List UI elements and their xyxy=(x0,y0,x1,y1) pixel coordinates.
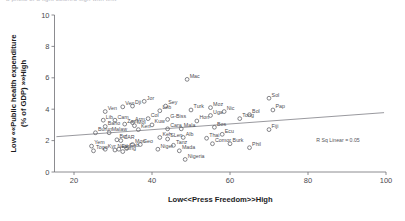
data-point-label: Ven xyxy=(125,100,134,106)
data-point-marker[interactable] xyxy=(189,108,193,112)
data-point-label: Nigeria xyxy=(188,153,205,159)
data-point-marker[interactable] xyxy=(213,125,217,129)
y-axis-title-line2: (% of GDP) »»High xyxy=(19,60,28,127)
data-point-label: Alb xyxy=(186,131,194,137)
data-point-label: Fiji xyxy=(272,123,279,129)
data-point-label: Sol xyxy=(272,92,280,98)
data-point-label: Kuw xyxy=(155,118,165,124)
y-tick-label: 6 xyxy=(45,73,49,82)
y-tick-label: 2 xyxy=(45,136,49,145)
data-point-marker[interactable] xyxy=(211,142,215,146)
data-point-marker[interactable] xyxy=(248,146,252,150)
data-point-marker[interactable] xyxy=(195,119,199,123)
data-point-marker[interactable] xyxy=(185,77,189,81)
data-point-label: Baho xyxy=(108,120,120,126)
x-tick-label: 100 xyxy=(380,176,393,185)
x-tick-label: 40 xyxy=(148,176,156,185)
data-point-label: Phil xyxy=(252,141,261,147)
data-point-marker[interactable] xyxy=(146,117,150,121)
data-point-marker[interactable] xyxy=(267,128,271,132)
data-point-marker[interactable] xyxy=(238,117,242,121)
data-point-marker[interactable] xyxy=(92,149,96,153)
y-tick-label: 8 xyxy=(45,42,49,51)
data-point-marker[interactable] xyxy=(156,147,160,151)
data-points: YemBurunTogoLibVenBahoMalawKyrNepCamBulE… xyxy=(90,73,285,162)
data-point-label: Ken xyxy=(141,123,150,129)
data-point-label: Mac xyxy=(190,73,200,79)
data-point-marker[interactable] xyxy=(90,144,94,148)
axes: 024681020406080100 xyxy=(41,11,392,185)
y-axis-title-line1: Low ««Public health expenditure xyxy=(9,34,18,152)
data-point-marker[interactable] xyxy=(133,124,137,128)
data-point-marker[interactable] xyxy=(150,123,154,127)
data-point-marker[interactable] xyxy=(267,96,271,100)
data-point-label: Ecu xyxy=(225,128,234,134)
chart-page: a photo of a light colored sign with tex… xyxy=(0,0,405,221)
data-point-marker[interactable] xyxy=(158,109,162,113)
data-point-marker[interactable] xyxy=(121,150,125,154)
data-point-label: Jor xyxy=(147,95,155,101)
data-point-label: Hon xyxy=(199,114,209,120)
data-point-label: Malaw xyxy=(112,126,127,132)
data-point-marker[interactable] xyxy=(113,148,117,152)
data-point-label: Sey xyxy=(168,99,177,105)
data-point-label: Dji xyxy=(135,99,141,105)
data-point-label: G-Biss xyxy=(170,113,186,119)
x-tick-label: 80 xyxy=(304,176,312,185)
data-point-marker[interactable] xyxy=(271,108,275,112)
data-point-label: Bol xyxy=(252,108,260,114)
data-point-marker[interactable] xyxy=(209,106,213,110)
data-point-label: Turk xyxy=(194,103,205,109)
data-point-label: Uga xyxy=(213,109,223,115)
data-point-label: Col xyxy=(151,112,159,118)
data-point-marker[interactable] xyxy=(121,105,125,109)
data-point-label: Bos xyxy=(217,121,226,127)
data-point-label: Ven xyxy=(108,105,117,111)
data-point-marker[interactable] xyxy=(142,99,146,103)
data-point-marker[interactable] xyxy=(177,149,181,153)
data-point-label: CAR xyxy=(123,134,134,140)
y-tick-label: 10 xyxy=(41,11,49,20)
data-point-label: Pap xyxy=(276,103,285,109)
data-point-label: SLen xyxy=(170,132,182,138)
data-point-marker[interactable] xyxy=(205,136,209,140)
data-point-label: Nic xyxy=(227,105,235,111)
x-axis-title: Low<<Press Freedom>>High xyxy=(168,195,273,204)
data-point-marker[interactable] xyxy=(115,138,119,142)
data-point-label: Kyr xyxy=(108,143,116,149)
data-point-label: Burk xyxy=(233,137,244,143)
data-point-label: Mada xyxy=(182,144,195,150)
data-point-marker[interactable] xyxy=(166,137,170,141)
x-tick-label: 60 xyxy=(226,176,234,185)
x-tick-label: 20 xyxy=(70,176,78,185)
scatter-plot: 024681020406080100 YemBurunTogoLibVenBah… xyxy=(0,0,405,221)
data-point-label: Geo xyxy=(143,138,153,144)
chart-svg: 024681020406080100 YemBurunTogoLibVenBah… xyxy=(0,0,405,221)
data-point-marker[interactable] xyxy=(158,136,162,140)
data-point-marker[interactable] xyxy=(166,118,170,122)
y-tick-label: 0 xyxy=(45,168,49,177)
data-point-marker[interactable] xyxy=(183,158,187,162)
data-point-marker[interactable] xyxy=(101,118,105,122)
data-point-label: Moz xyxy=(213,101,223,107)
y-tick-label: 4 xyxy=(45,105,49,114)
data-point-label: Lib xyxy=(106,114,113,120)
data-point-marker[interactable] xyxy=(220,132,224,136)
rsq-annotation: R Sq Linear = 0.05 xyxy=(316,137,360,143)
data-point-label: Mala xyxy=(184,122,196,128)
